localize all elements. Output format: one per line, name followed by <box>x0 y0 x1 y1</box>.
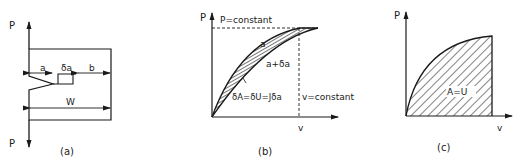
dim-w-label: W <box>66 97 75 107</box>
load-label-top: P <box>9 20 15 31</box>
y-axis-label-c: P <box>394 10 400 21</box>
v-constant-label: v=constant <box>302 92 354 102</box>
panel-a-specimen: P P a δa b W (a) <box>9 20 111 157</box>
x-axis-label-c: v <box>497 123 503 133</box>
x-axis-label: v <box>298 123 304 133</box>
figure-svg: P P a δa b W (a) P P=constant a a+δa δA=… <box>0 0 524 167</box>
curve-a-da-label: a+δa <box>266 59 290 69</box>
y-axis-label: P <box>200 12 206 23</box>
figure: P P a δa b W (a) P P=constant a a+δa δA=… <box>0 0 524 167</box>
crack-extension <box>53 74 76 84</box>
dim-da-label: δa <box>61 63 72 73</box>
dim-a-label: a <box>40 63 46 73</box>
caption-a: (a) <box>60 146 74 157</box>
dim-b-label: b <box>89 63 95 73</box>
load-label-bottom: P <box>9 138 15 149</box>
area-label: δA=δU=Jδa <box>232 92 282 102</box>
caption-c: (c) <box>437 142 450 153</box>
curve-a-label: a <box>260 39 266 49</box>
panel-b-load-displacement: P P=constant a a+δa δA=δU=Jδa v=constant… <box>200 12 354 157</box>
panel-c-energy-area: A=U P v (c) <box>394 10 512 153</box>
p-constant-label: P=constant <box>220 15 273 25</box>
area-label-c: A=U <box>447 87 467 97</box>
leader-line <box>243 78 246 83</box>
caption-b: (b) <box>258 146 272 157</box>
